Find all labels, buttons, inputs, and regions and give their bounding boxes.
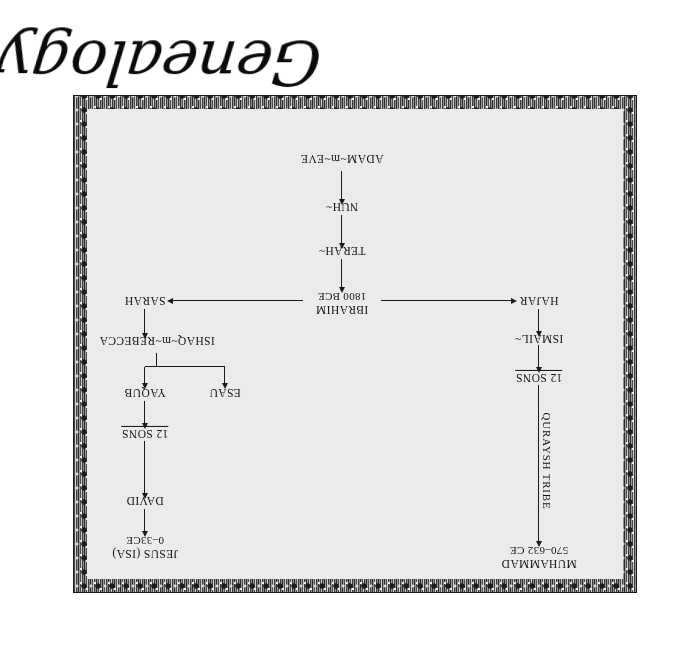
node-ishaq-rebecca[interactable]: ISHAQ~m~REBECCA [99, 335, 215, 348]
node-label: ISMAIL~ [515, 333, 564, 345]
node-sublabel: 570–632 CE [501, 544, 576, 556]
node-sarah[interactable]: SARAH [125, 295, 166, 308]
node-hajar[interactable]: HAJAR [519, 295, 558, 308]
page-content: ADAM~m~EVE NUH~ TERAH~ IBRAHIM 1800 BCE … [0, 0, 673, 655]
edge-terah-ibrahim [341, 259, 342, 287]
node-esau[interactable]: ESAU [209, 387, 241, 400]
edge-yaqub-sons [144, 401, 145, 423]
node-label: ESAU [209, 387, 241, 399]
edge-david-jesus [144, 509, 145, 531]
edge-ishaq-stem [156, 353, 157, 367]
node-label: MUHAMMAD [501, 558, 576, 570]
node-label: ISHAQ~m~REBECCA [99, 335, 215, 347]
node-nuh[interactable]: NUH~ [326, 201, 359, 214]
node-twelve-sons-yaqub[interactable]: 12 SONS [122, 426, 169, 440]
node-label: TERAH~ [319, 245, 366, 257]
arrowhead-ibrahim-hajar [511, 299, 517, 305]
edge-ibrahim-hajar [381, 300, 511, 301]
node-ismail[interactable]: ISMAIL~ [515, 333, 564, 346]
node-label: NUH~ [326, 201, 359, 213]
node-label: HAJAR [519, 295, 558, 307]
edge-ishaq-branch-bar [145, 366, 225, 367]
edge-sons-david [144, 441, 145, 493]
node-label: SARAH [125, 295, 166, 307]
edge-ishaq-esau [224, 367, 225, 383]
node-terah[interactable]: TERAH~ [319, 245, 366, 258]
node-ibrahim[interactable]: IBRAHIM 1800 BCE [316, 290, 369, 315]
node-david[interactable]: DAVID [126, 495, 164, 508]
node-label: 12 SONS [516, 372, 563, 384]
edge-label: QURAYSH TRIBE [541, 413, 553, 510]
node-label: ADAM~m~EVE [301, 153, 384, 165]
arrowhead-ibrahim-sarah [167, 299, 173, 305]
edge-hajar-ismail [538, 309, 539, 331]
edge-ismail-sons [538, 345, 539, 367]
node-label: JESUS (ISA) [112, 548, 178, 560]
node-label: YAQUB [124, 387, 166, 399]
node-label: 12 SONS [122, 428, 169, 440]
node-sublabel: 0–33CE [112, 534, 178, 546]
node-adam-eve[interactable]: ADAM~m~EVE [301, 153, 384, 166]
edge-adam-nuh [341, 171, 342, 199]
node-jesus[interactable]: JESUS (ISA) 0–33CE [112, 534, 178, 559]
page-caption: Genealogy [0, 26, 325, 99]
edge-nuh-terah [341, 215, 342, 243]
genealogy-diagram: ADAM~m~EVE NUH~ TERAH~ IBRAHIM 1800 BCE … [87, 109, 623, 579]
node-twelve-sons-ismail[interactable]: 12 SONS [516, 370, 563, 384]
node-yaqub[interactable]: YAQUB [124, 387, 166, 400]
node-label: IBRAHIM [316, 304, 369, 316]
edge-label-quraysh-tribe: QURAYSH TRIBE [541, 413, 553, 510]
edge-sarah-ishaq [144, 309, 145, 333]
node-sublabel: 1800 BCE [316, 290, 369, 302]
edge-ishaq-yaqub [144, 367, 145, 383]
node-muhammad[interactable]: MUHAMMAD 570–632 CE [501, 544, 576, 569]
edge-sons-muhammad [538, 385, 539, 541]
edge-ibrahim-sarah [173, 300, 303, 301]
node-label: DAVID [126, 495, 164, 507]
